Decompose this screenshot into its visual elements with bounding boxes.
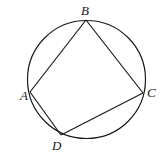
vertex-label-a: A: [19, 88, 28, 103]
vertex-label-d: D: [51, 138, 62, 153]
segment-bc: [86, 20, 143, 93]
diagram-canvas: A B C D: [0, 0, 167, 162]
segment-da: [30, 92, 61, 135]
segment-cd: [61, 93, 143, 135]
vertex-label-b: B: [81, 3, 89, 18]
circumscribed-circle: [28, 21, 146, 139]
vertex-label-c: C: [147, 85, 156, 100]
segment-ab: [30, 20, 86, 92]
